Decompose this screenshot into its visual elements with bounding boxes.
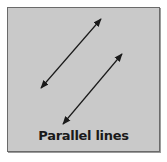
line-2-double-arrow bbox=[63, 54, 122, 124]
line-1-double-arrow bbox=[41, 19, 101, 88]
figure-caption: Parallel lines bbox=[0, 128, 167, 143]
